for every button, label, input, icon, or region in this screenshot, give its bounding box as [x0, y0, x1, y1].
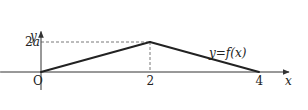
x-tick-label: 2: [147, 74, 155, 88]
x-tick-label: 4: [256, 74, 264, 88]
origin-label: O: [33, 74, 43, 88]
curve-label: y=f(x): [208, 46, 247, 60]
x-axis-label: x: [285, 74, 292, 88]
function-graph: x y O y=f(x) 24 2a: [0, 0, 308, 110]
curve-segment: [41, 42, 150, 72]
y-tick-label: 2a: [25, 35, 40, 49]
